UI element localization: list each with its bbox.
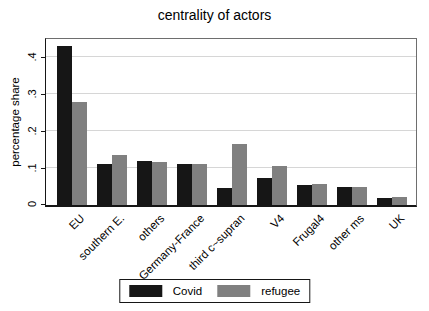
legend-label-refugee: refugee (261, 285, 300, 297)
bar-refugee-eu (72, 102, 87, 205)
gridline-3 (46, 93, 416, 94)
legend-item-covid: Covid (129, 285, 202, 297)
ytick-mark-3 (41, 94, 46, 95)
ytick-label-4: .4 (26, 53, 38, 62)
xlabel-eu: EU (67, 212, 87, 232)
bar-covid-others (137, 161, 152, 205)
xlabel-uk: UK (387, 212, 407, 232)
refugee-swatch-icon (217, 285, 250, 297)
bar-covid-uk (377, 198, 392, 205)
bar-covid-eu (57, 46, 72, 205)
xlabel-others: others (135, 212, 166, 243)
gridline-4 (46, 56, 416, 57)
ytick-label-1: .1 (26, 164, 38, 173)
ytick-label-2: .2 (26, 127, 38, 136)
bar-covid-southern-e (97, 164, 112, 205)
legend-item-refugee: refugee (217, 285, 300, 297)
bar-refugee-frugal4 (312, 184, 327, 205)
bar-refugee-uk (392, 197, 407, 205)
legend-label-covid: Covid (173, 285, 202, 297)
gridline-2 (46, 130, 416, 131)
bar-refugee-other-ms (352, 187, 367, 205)
plot-area: percentage share 0.1.2.3.4 (45, 38, 417, 207)
ytick-label-3: .3 (26, 90, 38, 99)
chart-figure: centrality of actors percentage share 0.… (0, 0, 429, 311)
bar-covid-other-ms (337, 187, 352, 205)
bar-covid-frugal4 (297, 185, 312, 205)
bar-refugee-others (152, 162, 167, 205)
bar-refugee-third-c-supran (232, 144, 247, 205)
ytick-label-0: 0 (26, 201, 38, 207)
ytick-mark-1 (41, 168, 46, 169)
y-axis-title: percentage share (9, 77, 21, 167)
xlabel-frugal4: Frugal4 (290, 212, 326, 248)
ytick-mark-2 (41, 131, 46, 132)
xlabel-v4: V4 (268, 212, 286, 230)
legend: Covid refugee (119, 279, 310, 303)
bar-refugee-southern-e (112, 155, 127, 205)
ytick-mark-4 (41, 57, 46, 58)
xlabel-other-ms: other ms (326, 212, 366, 252)
bar-covid-v4 (257, 178, 272, 205)
bar-covid-germany-france (177, 164, 192, 205)
chart-title: centrality of actors (0, 7, 429, 23)
covid-swatch-icon (129, 285, 162, 297)
bar-refugee-v4 (272, 166, 287, 205)
bar-covid-third-c-supran (217, 188, 232, 205)
ytick-mark-0 (41, 204, 46, 205)
bar-refugee-germany-france (192, 164, 207, 205)
